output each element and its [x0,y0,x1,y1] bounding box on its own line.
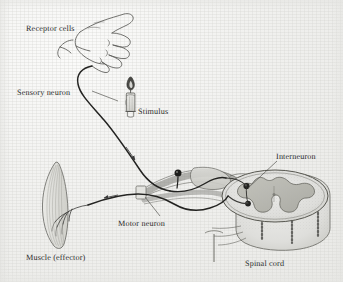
label-receptor-cells: Receptor cells [26,24,75,33]
label-sensory-neuron: Sensory neuron [17,88,70,97]
label-motor-neuron: Motor neuron [118,219,165,228]
diagram-artwork [0,0,343,282]
label-spinal-cord: Spinal cord [245,259,284,268]
hand-illustration [58,14,133,73]
leader-sensory-neuron [92,91,118,101]
candle-illustration [125,77,135,117]
motor-neuron-fiber [88,194,228,210]
muscle-illustration [42,162,88,248]
label-interneuron: Interneuron [276,152,316,161]
reflex-arc-figure: Receptor cells Sensory neuron Stimulus I… [0,0,343,282]
sensory-direction-arrow [126,147,135,160]
label-stimulus: Stimulus [138,107,168,116]
label-muscle-effector: Muscle (effector) [26,253,85,262]
